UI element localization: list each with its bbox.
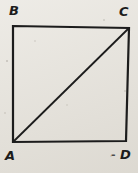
vertex-label-c: C xyxy=(119,5,129,19)
vertex-label-a: A xyxy=(5,149,15,163)
square-figure xyxy=(0,0,138,173)
vertex-label-d: D xyxy=(120,148,131,162)
geometry-diagram: B C A D - xyxy=(0,0,138,173)
vertex-label-b: B xyxy=(9,4,19,18)
diagonal-ac xyxy=(14,29,129,142)
stray-dash-mark: - xyxy=(111,149,116,160)
